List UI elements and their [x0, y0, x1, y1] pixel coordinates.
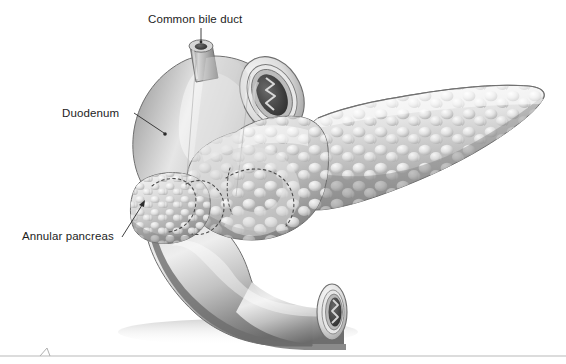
- footer-caret-mark: [40, 348, 50, 356]
- label-common-bile-duct: Common bile duct: [148, 14, 242, 26]
- label-duodenum: Duodenum: [62, 108, 119, 120]
- figure-root: Common bile duct Duodenum Annular pancre…: [0, 0, 566, 364]
- footer-rule: [0, 348, 566, 356]
- leader-dot-common-bile-duct: [200, 41, 203, 44]
- pancreas-tail-texture: [295, 80, 555, 220]
- pancreas-body-and-tail: [295, 80, 555, 220]
- label-annular-pancreas: Annular pancreas: [22, 231, 114, 243]
- duodenum-lower-cut-end: [317, 284, 347, 340]
- anatomical-illustration: [0, 0, 566, 364]
- leader-dot-duodenum: [163, 132, 167, 136]
- bile-duct-lumen: [195, 43, 207, 49]
